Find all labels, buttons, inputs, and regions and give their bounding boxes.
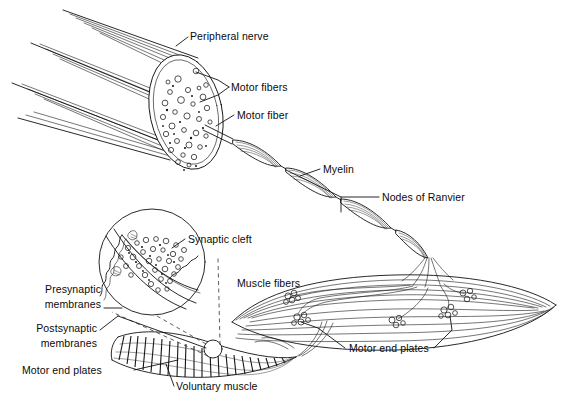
label-voluntary-muscle: Voluntary muscle xyxy=(176,380,258,392)
label-postsynaptic-line1: Postsynaptic xyxy=(36,322,97,334)
neuromuscular-junction-figure: Peripheral nerve Motor fibers Motor fibe… xyxy=(0,0,566,408)
label-postsynaptic-line2: membranes xyxy=(41,337,97,349)
label-motor-fiber: Motor fiber xyxy=(237,109,289,121)
label-motor-end-plates-left: Motor end plates xyxy=(22,364,102,376)
label-myelin: Myelin xyxy=(323,163,354,175)
diagram-canvas: Peripheral nerve Motor fibers Motor fibe… xyxy=(0,0,566,408)
label-muscle-fibers: Muscle fibers xyxy=(237,277,300,289)
label-motor-fibers: Motor fibers xyxy=(231,81,288,93)
label-motor-end-plates-right: Motor end plates xyxy=(349,342,429,354)
label-presynaptic-line1: Presynaptic xyxy=(45,283,101,295)
label-nodes-of-ranvier: Nodes of Ranvier xyxy=(382,191,465,203)
label-peripheral-nerve: Peripheral nerve xyxy=(190,30,269,42)
label-presynaptic-line2: membranes xyxy=(45,298,101,310)
label-synaptic-cleft: Synaptic cleft xyxy=(188,233,252,245)
